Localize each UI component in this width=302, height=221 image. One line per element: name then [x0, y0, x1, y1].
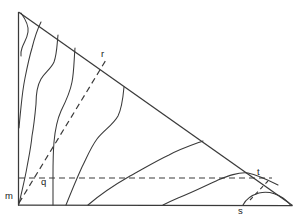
contour-line-6 [88, 141, 203, 205]
dashed-lines-group [19, 60, 272, 203]
dashed-diagonal-m-to-r [19, 60, 106, 203]
dashed-diagonal-s-to-t [250, 181, 268, 200]
contour-line-3 [19, 35, 58, 204]
contour-line-5 [66, 87, 124, 205]
label-m: m [5, 191, 13, 201]
label-s: s [238, 206, 243, 216]
figure-canvas: m q r s t [0, 0, 302, 221]
label-q: q [41, 177, 46, 187]
triangle-bottom-edge [18, 205, 293, 206]
contour-line-4 [53, 48, 75, 205]
contour-line-1 [21, 13, 28, 56]
triangle-hypotenuse [19, 12, 293, 206]
contour-line-2 [19, 22, 41, 128]
triangle-diagram-svg [0, 0, 302, 221]
label-t: t [257, 167, 260, 177]
triangle-outline-group [18, 12, 293, 206]
label-r: r [101, 49, 104, 59]
